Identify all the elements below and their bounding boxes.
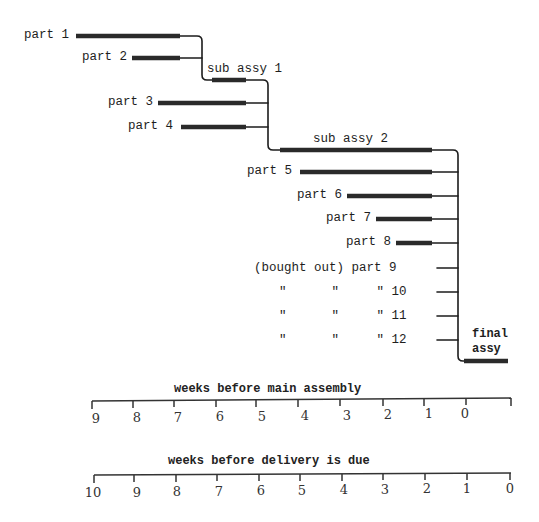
part8-label: part 8 <box>346 236 391 249</box>
axis-delivery-tick: 7 <box>215 485 223 498</box>
part2-label: part 2 <box>82 51 127 64</box>
part6-label: part 6 <box>297 189 342 202</box>
part12-label: " " " 12 <box>279 334 407 347</box>
axis-delivery-tick: 5 <box>298 484 306 497</box>
axis-main-tick: 9 <box>92 412 100 425</box>
axis-main-tick: 1 <box>425 407 433 420</box>
axis-main-tick: 2 <box>384 408 392 421</box>
axis-delivery-tick: 6 <box>257 484 265 497</box>
axis-delivery-tick: 0 <box>506 482 514 495</box>
axis-main-title: weeks before main assembly <box>174 382 361 396</box>
part7-label: part 7 <box>326 212 371 225</box>
part1-label: part 1 <box>24 29 69 42</box>
axis-delivery-tick: 8 <box>173 485 181 498</box>
sub-assy2-label: sub assy 2 <box>313 133 388 146</box>
part9-label: (bought out) part 9 <box>254 262 397 275</box>
axis-delivery-tick: 10 <box>85 486 102 499</box>
axis-main-tick: 3 <box>343 409 351 422</box>
final-assy-label-line1: final <box>472 328 508 340</box>
axis-delivery-tick: 2 <box>423 482 431 495</box>
axis-main-tick: 4 <box>301 409 309 422</box>
axis-delivery-tick: 4 <box>340 483 348 496</box>
part5-label: part 5 <box>247 165 292 178</box>
axis-main-tick: 7 <box>174 411 182 424</box>
axis-delivery-title: weeks before delivery is due <box>168 454 370 468</box>
axis-delivery-tick: 3 <box>381 483 389 496</box>
axis-main-tick: 0 <box>461 407 469 420</box>
axis-main-tick: 5 <box>258 410 266 423</box>
axis-main-tick: 6 <box>216 410 224 423</box>
axis-delivery-tick: 1 <box>463 482 471 495</box>
sub-assy1-label: sub assy 1 <box>207 63 282 76</box>
part3-label: part 3 <box>108 96 153 109</box>
part10-label: " " " 10 <box>279 286 407 299</box>
part11-label: " " " 11 <box>279 310 407 323</box>
axis-main-tick: 8 <box>133 411 141 424</box>
part4-label: part 4 <box>128 120 173 133</box>
axis-delivery-tick: 9 <box>133 486 141 499</box>
final-assy-label-line2: assy <box>472 343 501 355</box>
